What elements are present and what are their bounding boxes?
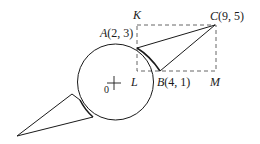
- label-c: C(9, 5): [210, 9, 244, 23]
- label-c-coords: (9, 5): [218, 9, 244, 23]
- circle: [78, 44, 154, 120]
- label-origin: 0: [104, 84, 109, 95]
- triangle-lower: [17, 94, 93, 136]
- label-l: L: [130, 75, 138, 89]
- geometry-diagram: K C(9, 5) A(2, 3) L B(4, 1) M 0: [0, 0, 260, 144]
- tangent-arc-upper: [137, 48, 160, 71]
- label-m: M: [209, 75, 221, 89]
- label-k: K: [132, 8, 142, 22]
- label-b-coords: (4, 1): [164, 75, 190, 89]
- label-a-coords: (2, 3): [107, 26, 133, 40]
- label-b: B(4, 1): [157, 75, 190, 89]
- tangent-arc-lower: [80, 100, 93, 117]
- label-a: A(2, 3): [99, 26, 133, 40]
